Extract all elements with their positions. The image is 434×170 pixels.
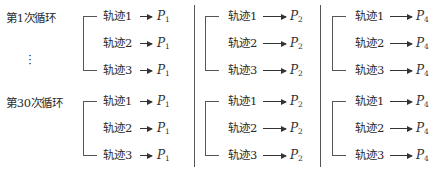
p-subscript: 1 bbox=[165, 69, 170, 78]
bracket-line bbox=[205, 101, 219, 102]
bracket-line bbox=[332, 16, 333, 70]
p-symbol: P bbox=[290, 148, 298, 162]
bracket-line bbox=[205, 101, 206, 155]
p-subscript: 4 bbox=[424, 127, 429, 136]
arrow-icon bbox=[140, 101, 152, 102]
p-subscript: 2 bbox=[298, 100, 303, 109]
bracket-line bbox=[83, 101, 84, 155]
probability-label: P2 bbox=[290, 10, 303, 26]
bracket-line bbox=[83, 155, 97, 156]
trajectory-label: 轨迹2 bbox=[228, 122, 257, 134]
probability-label: P1 bbox=[157, 37, 170, 53]
bracket-line bbox=[332, 155, 346, 156]
probability-label: P4 bbox=[416, 122, 429, 138]
p-subscript: 2 bbox=[298, 42, 303, 51]
p-symbol: P bbox=[157, 9, 165, 23]
arrow-icon bbox=[390, 155, 412, 156]
bracket-line bbox=[205, 16, 206, 70]
arrow-icon bbox=[390, 70, 412, 71]
column-separator bbox=[320, 5, 321, 167]
trajectory-label: 轨迹2 bbox=[228, 37, 257, 49]
probability-label: P2 bbox=[290, 37, 303, 53]
arrow-icon bbox=[263, 155, 286, 156]
bracket-line bbox=[332, 70, 346, 71]
p-symbol: P bbox=[157, 121, 165, 135]
loop-label: 第30次循环 bbox=[6, 94, 63, 110]
p-subscript: 4 bbox=[424, 69, 429, 78]
p-symbol: P bbox=[290, 121, 298, 135]
trajectory-label: 轨迹3 bbox=[103, 149, 132, 161]
p-subscript: 1 bbox=[165, 127, 170, 136]
arrow-icon bbox=[140, 155, 152, 156]
p-symbol: P bbox=[290, 63, 298, 77]
probability-label: P1 bbox=[157, 10, 170, 26]
trajectory-label: 轨迹1 bbox=[103, 10, 132, 22]
p-subscript: 1 bbox=[165, 100, 170, 109]
arrow-icon bbox=[140, 70, 152, 71]
trajectory-label: 轨迹3 bbox=[355, 64, 384, 76]
trajectory-label: 轨迹1 bbox=[228, 95, 257, 107]
p-symbol: P bbox=[290, 94, 298, 108]
arrow-icon bbox=[390, 43, 412, 44]
trajectory-label: 轨迹2 bbox=[103, 122, 132, 134]
probability-label: P4 bbox=[416, 64, 429, 80]
probability-label: P4 bbox=[416, 95, 429, 111]
probability-label: P2 bbox=[290, 122, 303, 138]
probability-label: P1 bbox=[157, 122, 170, 138]
arrow-icon bbox=[263, 128, 286, 129]
p-symbol: P bbox=[416, 36, 424, 50]
p-subscript: 2 bbox=[298, 154, 303, 163]
bracket-line bbox=[83, 16, 84, 70]
probability-label: P4 bbox=[416, 149, 429, 165]
arrow-icon bbox=[390, 101, 412, 102]
probability-label: P4 bbox=[416, 10, 429, 26]
p-symbol: P bbox=[416, 9, 424, 23]
bracket-line bbox=[83, 70, 97, 71]
arrow-icon bbox=[263, 43, 286, 44]
bracket-line bbox=[332, 101, 333, 155]
p-subscript: 2 bbox=[298, 69, 303, 78]
bracket-line bbox=[332, 16, 346, 17]
trajectory-label: 轨迹1 bbox=[228, 10, 257, 22]
trajectory-label: 轨迹3 bbox=[103, 64, 132, 76]
p-symbol: P bbox=[290, 9, 298, 23]
probability-label: P4 bbox=[416, 37, 429, 53]
p-subscript: 2 bbox=[298, 127, 303, 136]
p-subscript: 4 bbox=[424, 100, 429, 109]
probability-label: P2 bbox=[290, 149, 303, 165]
bracket-line bbox=[205, 70, 219, 71]
probability-label: P2 bbox=[290, 95, 303, 111]
arrow-icon bbox=[390, 16, 412, 17]
trajectory-label: 轨迹2 bbox=[355, 37, 384, 49]
p-symbol: P bbox=[416, 121, 424, 135]
arrow-icon bbox=[140, 43, 152, 44]
arrow-icon bbox=[263, 70, 286, 71]
bracket-line bbox=[205, 155, 219, 156]
probability-label: P2 bbox=[290, 64, 303, 80]
p-subscript: 4 bbox=[424, 154, 429, 163]
arrow-icon bbox=[263, 101, 286, 102]
trajectory-label: 轨迹1 bbox=[355, 95, 384, 107]
probability-label: P1 bbox=[157, 149, 170, 165]
p-symbol: P bbox=[416, 94, 424, 108]
p-symbol: P bbox=[157, 94, 165, 108]
p-symbol: P bbox=[416, 63, 424, 77]
column-separator bbox=[194, 5, 195, 167]
p-subscript: 1 bbox=[165, 42, 170, 51]
trajectory-label: 轨迹1 bbox=[103, 95, 132, 107]
vertical-ellipsis-icon: ··· bbox=[27, 55, 33, 67]
p-subscript: 4 bbox=[424, 42, 429, 51]
arrow-icon bbox=[263, 16, 286, 17]
arrow-icon bbox=[140, 16, 152, 17]
trajectory-label: 轨迹3 bbox=[228, 149, 257, 161]
bracket-line bbox=[83, 101, 97, 102]
trajectory-label: 轨迹2 bbox=[355, 122, 384, 134]
p-subscript: 1 bbox=[165, 154, 170, 163]
trajectory-label: 轨迹2 bbox=[103, 37, 132, 49]
loop-label: 第1次循环 bbox=[6, 9, 56, 25]
bracket-line bbox=[205, 16, 219, 17]
p-subscript: 4 bbox=[424, 15, 429, 24]
arrow-icon bbox=[390, 128, 412, 129]
trajectory-label: 轨迹3 bbox=[355, 149, 384, 161]
p-symbol: P bbox=[416, 148, 424, 162]
